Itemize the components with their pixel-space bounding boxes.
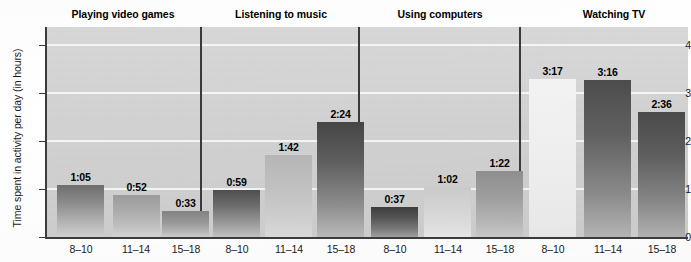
bar-using-computers-8-10: 0:37 [371, 207, 418, 237]
bar-fill [584, 80, 631, 237]
y-tick-mark-1 [39, 189, 46, 191]
bar-value-label: 0:33 [175, 197, 195, 209]
panel-title-playing-video-games: Playing video games [72, 8, 175, 20]
bar-watching-tv-8-10: 3:17 [529, 79, 576, 237]
panel-title-listening-to-music: Listening to music [235, 8, 327, 20]
bar-value-label: 0:52 [126, 181, 146, 193]
x-tick-label-p1-15-18: 15–18 [327, 243, 356, 255]
y-tick-mark-2 [39, 141, 46, 143]
bar-watching-tv-11-14: 3:16 [584, 80, 631, 237]
bar-playing-video-games-15-18: 0:33 [162, 211, 209, 237]
x-tick-label-p3-11-14: 11–14 [594, 243, 622, 255]
x-axis-baseline [45, 237, 688, 239]
bar-value-label: 2:24 [330, 108, 350, 120]
bar-fill [424, 187, 471, 237]
bar-value-label: 1:22 [489, 157, 509, 169]
bar-using-computers-15-18: 1:22 [476, 171, 523, 237]
bar-fill [57, 185, 104, 237]
bar-watching-tv-15-18: 2:36 [638, 112, 685, 237]
bar-fill [476, 171, 523, 237]
bar-fill [317, 122, 364, 237]
y-axis-line [45, 27, 47, 238]
x-tick-label-p3-15-18: 15–18 [648, 243, 677, 255]
panel-title-using-computers: Using computers [397, 8, 482, 20]
bar-listening-to-music-11-14: 1:42 [265, 155, 312, 237]
bar-value-label: 3:17 [542, 65, 562, 77]
x-tick-label-p1-8-10: 8–10 [226, 243, 249, 255]
bar-value-label: 2:36 [651, 98, 671, 110]
bar-fill [265, 155, 312, 237]
x-tick-label-p0-11-14: 11–14 [122, 243, 150, 255]
panel-title-watching-tv: Watching TV [583, 8, 646, 20]
bar-fill [371, 207, 418, 237]
bar-value-label: 3:16 [597, 66, 617, 78]
x-tick-label-p2-8-10: 8–10 [384, 243, 407, 255]
x-tick-label-p2-15-18: 15–18 [486, 243, 515, 255]
y-tick-label-4: 4 [657, 39, 691, 51]
bar-value-label: 0:59 [226, 176, 246, 188]
bar-fill [213, 190, 260, 237]
bar-listening-to-music-15-18: 2:24 [317, 122, 364, 237]
bar-fill [113, 195, 160, 237]
bar-fill [638, 112, 685, 237]
bar-playing-video-games-11-14: 0:52 [113, 195, 160, 237]
gridline-4 [46, 44, 688, 46]
y-tick-mark-4 [39, 45, 46, 47]
bar-fill [529, 79, 576, 237]
x-tick-label-p2-11-14: 11–14 [434, 243, 462, 255]
x-tick-label-p0-15-18: 15–18 [172, 243, 201, 255]
x-tick-label-p1-11-14: 11–14 [275, 243, 303, 255]
bar-playing-video-games-8-10: 1:05 [57, 185, 104, 237]
bar-using-computers-11-14: 1:02 [424, 187, 471, 237]
bar-value-label: 1:42 [278, 141, 298, 153]
bar-value-label: 1:02 [437, 173, 457, 185]
panel-separator-1 [200, 27, 202, 238]
bar-value-label: 0:37 [384, 193, 404, 205]
bar-fill [162, 211, 209, 237]
bar-value-label: 1:05 [70, 171, 90, 183]
y-axis-title: Time spent in activity per day (in hours… [11, 28, 23, 248]
y-tick-mark-3 [39, 93, 46, 95]
x-tick-label-p0-8-10: 8–10 [70, 243, 93, 255]
x-tick-label-p3-8-10: 8–10 [542, 243, 565, 255]
chart-figure: Time spent in activity per day (in hours… [0, 0, 691, 262]
bar-listening-to-music-8-10: 0:59 [213, 190, 260, 237]
